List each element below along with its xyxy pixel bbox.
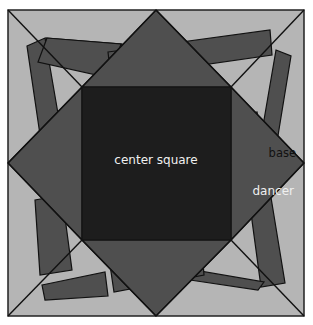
center-square-label: center square — [114, 153, 197, 167]
base-label: base — [269, 146, 296, 160]
quilt-block-diagram: center square base dancer — [0, 0, 313, 325]
dancer-label: dancer — [253, 184, 295, 198]
